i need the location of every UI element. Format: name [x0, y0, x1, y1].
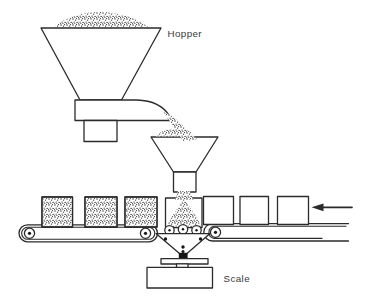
filled-box-2	[85, 197, 117, 227]
weigh-bracket-connector	[179, 253, 188, 259]
scale-label: Scale	[224, 273, 251, 284]
scale-body	[147, 267, 213, 288]
empty-box-2	[240, 197, 269, 225]
feed-funnel-spout	[174, 172, 197, 192]
empty-box-1	[204, 197, 234, 225]
flow-direction-arrow-head	[312, 203, 324, 211]
process-diagram: Hopper	[0, 0, 370, 305]
empty-box-3	[278, 197, 309, 225]
funnel-material-mound	[156, 128, 195, 136]
hopper-material-pile	[53, 12, 149, 28]
left-belt-pulley-left-axle	[28, 232, 31, 235]
chute-support	[84, 121, 117, 142]
filled-box-3	[125, 197, 157, 227]
diagram-canvas: Hopper	[0, 0, 370, 305]
hopper-label: Hopper	[168, 28, 203, 39]
feed-funnel	[151, 137, 218, 172]
discharge-chute	[75, 100, 172, 121]
right-belt-pulley-axle	[214, 231, 217, 234]
hopper-body	[41, 28, 161, 100]
left-belt-pulley-right-axle	[144, 232, 147, 235]
filled-box-1	[42, 197, 73, 227]
